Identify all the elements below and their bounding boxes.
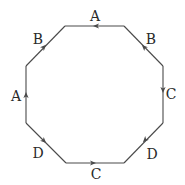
label-right: C xyxy=(166,86,177,102)
label-upper-right: B xyxy=(146,31,156,47)
label-top: A xyxy=(89,8,101,24)
octagon-diagram: A B C D C D A B xyxy=(0,0,185,185)
label-lower-left: D xyxy=(32,145,43,161)
label-lower-right: D xyxy=(146,146,157,162)
arrow-down-left-icon xyxy=(141,136,149,144)
label-left: A xyxy=(10,88,22,104)
label-bottom: C xyxy=(91,166,102,182)
label-upper-left: B xyxy=(33,31,43,47)
